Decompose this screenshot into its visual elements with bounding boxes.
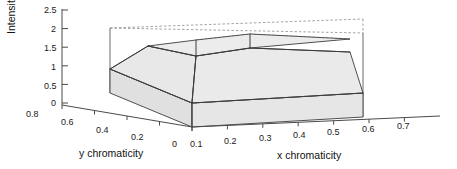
x-tick-label-0.7: 0.7 — [397, 122, 410, 131]
y-tick-label-0.4: 0.4 — [96, 126, 109, 135]
chart-figure: Intensity y chromaticity x chromaticity … — [0, 0, 457, 169]
x-tick-label-0.4: 0.4 — [293, 131, 306, 140]
y-tick-label-0: 0 — [172, 140, 177, 149]
z-tick-label-2.5: 2.5 — [44, 6, 57, 15]
x-tick-label-0.3: 0.3 — [259, 134, 272, 143]
y-tick-label-0.6: 0.6 — [61, 118, 74, 127]
z-tick-label-0: 0 — [51, 99, 56, 108]
z-tick-label-2: 2 — [51, 25, 56, 34]
z-axis-title: Intensity — [6, 0, 17, 34]
x-axis-title: x chromaticity — [277, 150, 341, 161]
z-tick-label-1: 1 — [51, 63, 56, 72]
box-top-diagonal-edge — [110, 28, 363, 33]
x-tick-label-0.1: 0.1 — [190, 140, 203, 149]
box-top-back-edge — [110, 19, 363, 28]
z-tick-label-0.5: 0.5 — [44, 82, 57, 91]
y-tick-label-0.2: 0.2 — [131, 133, 144, 142]
x-tick-label-0.2: 0.2 — [224, 137, 237, 146]
x-tick-label-0.6: 0.6 — [362, 125, 375, 134]
z-axis-ticks — [62, 10, 68, 103]
z-tick-label-1.5: 1.5 — [44, 44, 57, 53]
y-tick-label-0.8: 0.8 — [26, 110, 39, 119]
x-tick-label-0.5: 0.5 — [327, 128, 340, 137]
y-axis-title: y chromaticity — [79, 148, 143, 159]
